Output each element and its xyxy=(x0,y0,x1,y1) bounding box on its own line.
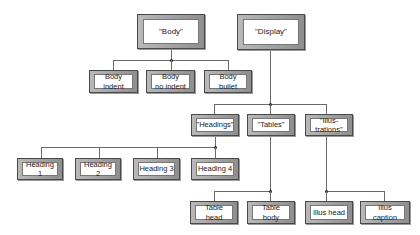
node-label: Heading 1 xyxy=(22,162,58,176)
node-body: "Body" xyxy=(137,14,205,49)
node-body-no-indent: Body no indent xyxy=(146,70,195,93)
connector xyxy=(113,60,114,70)
node-label: Illus head xyxy=(310,205,348,220)
node-table-body: Table body xyxy=(247,201,295,224)
connector xyxy=(270,191,271,201)
node-label: Body bullet xyxy=(209,74,247,89)
node-illus-caption: Illus caption xyxy=(360,201,410,224)
connector xyxy=(384,191,385,201)
connector xyxy=(326,104,327,114)
node-illus-head: Illus head xyxy=(305,201,353,224)
connector xyxy=(270,50,271,104)
connector xyxy=(171,60,172,70)
node-label: Table body xyxy=(252,205,290,220)
node-label: Heading 3 xyxy=(138,162,175,176)
connector xyxy=(228,60,229,70)
connector xyxy=(270,136,271,191)
connector xyxy=(41,147,216,148)
connector xyxy=(215,147,216,158)
node-body-indent: Body indent xyxy=(89,70,138,93)
node-heading-4: Heading 4 xyxy=(191,158,239,180)
node-label: Body indent xyxy=(94,74,133,89)
node-label: Illus caption xyxy=(365,205,405,220)
node-label: Heading 2 xyxy=(80,162,116,176)
node-label: Heading 4 xyxy=(196,162,234,176)
node-heading-3: Heading 3 xyxy=(133,158,180,180)
node-label: Body no indent xyxy=(151,74,190,89)
node-table-head: Table head xyxy=(190,201,238,224)
connector xyxy=(157,147,158,158)
connector xyxy=(99,147,100,158)
connector xyxy=(326,191,385,192)
connector xyxy=(326,191,327,201)
node-tables: "Tables" xyxy=(247,114,295,136)
connector xyxy=(270,104,271,114)
node-label: "Display" xyxy=(243,19,299,45)
node-label: Table head xyxy=(195,205,233,220)
connector xyxy=(214,191,271,192)
node-heading-1: Heading 1 xyxy=(17,158,63,180)
connector xyxy=(214,104,215,114)
node-display: "Display" xyxy=(237,14,305,50)
node-headings: "Headings" xyxy=(191,114,239,136)
connector xyxy=(41,147,42,158)
connector xyxy=(214,191,215,201)
node-illustrations: "Illus- trations" xyxy=(305,114,353,136)
node-label: "Headings" xyxy=(196,118,234,132)
node-label: "Body" xyxy=(143,19,199,44)
node-body-bullet: Body bullet xyxy=(204,70,252,93)
node-label: "Tables" xyxy=(252,118,290,132)
connector xyxy=(326,136,327,191)
node-heading-2: Heading 2 xyxy=(75,158,121,180)
node-label: "Illus- trations" xyxy=(310,118,348,132)
